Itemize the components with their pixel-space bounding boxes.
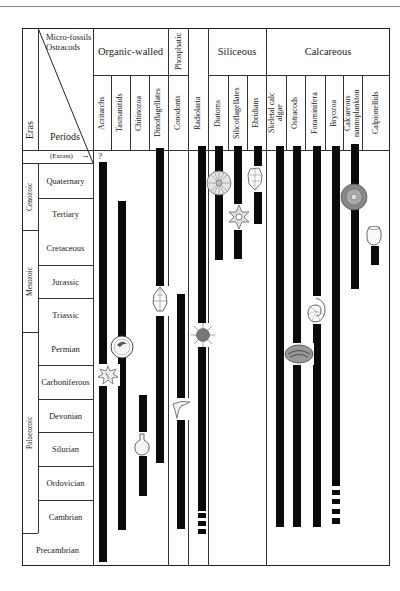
taxon-acritarchs: Acritarchs [93,76,111,150]
taxon-radiolaria: Radiolaria [188,76,208,150]
range-bar-diatoms [215,146,223,260]
taxon-ostracods: Ostracods [286,76,305,150]
calpionellid-fossil-icon [365,224,383,246]
range-bar-radiolaria-dash [198,529,206,534]
periods-axis-label: Periods [50,131,80,142]
taxon-calcareous-nannoplankton: Calcareous nannoplankton [343,76,362,150]
conodont-fossil-icon [171,398,191,420]
range-bar-bryozoa-dash [332,518,340,524]
page-top-rule [0,6,400,7]
range-bar-bryozoa [332,146,340,486]
group-phosphatic: Phosphatic [168,28,188,75]
taxon-foraminifera: Foraminifera [305,76,325,150]
taxon-silicoflagellates: Silicoflagellates [228,76,247,150]
range-bar-foraminifera [313,146,321,527]
period-silurian: Silurian [38,432,93,466]
era-mesozoic: Mesozoic [22,230,38,332]
group-organic-walled: Organic-walled [93,28,168,75]
range-bar-calcareous-nannoplankton [351,144,359,289]
era-cenozoic: Cenozoic [22,163,38,230]
range-bar-skeletal-calc-algae [276,146,284,527]
taxon-ebridians: Ebridians [247,76,266,150]
ostracod-fossil-icon [284,343,314,365]
period-cambrian: Cambrian [38,500,93,533]
taxon-dinoflagellates: Dinoflagellates [149,76,168,150]
period-permian: Permian [38,332,93,365]
range-bar-silicoflagellates [234,146,242,259]
arrow-right-icon: → [81,150,90,160]
range-bar-calpionellids [371,245,379,265]
range-bar-acritarchs [99,162,107,562]
period-tertiary: Tertiary [38,198,93,230]
taxon-skeletal-calc-algae: Skeletal calc algae [266,76,286,150]
foraminifera-fossil-icon [305,296,327,324]
chitinozoan-fossil-icon [133,432,151,456]
period-precambrian: Precambrian [22,533,93,566]
group-siliceous: Siliceous [208,28,266,75]
taxon-bryozoa: Bryozoa [325,76,343,150]
radiolarian-fossil-icon [191,323,215,347]
range-bar-ostracods [293,146,301,527]
range-bar-radiolaria-dash [198,513,206,518]
acritarch-fossil-icon [96,364,120,386]
uncertain-marker: ? [98,151,102,161]
period-cretaceous: Cretaceous [38,230,93,265]
eras-axis-label: Eras [22,110,38,150]
period-jurassic: Jurassic [38,265,93,298]
period-devonian: Devonian [38,399,93,432]
tasmanitid-fossil-icon [110,335,134,359]
extant-label: (Extant) [50,152,73,160]
diatom-fossil-icon [206,170,232,196]
era-palaeozoic: Palaeozoic [22,332,38,533]
taxon-tasmanitids: Tasmanitids [111,76,130,150]
silicoflagellate-fossil-icon [228,204,250,230]
period-carboniferous: Carboniferous [38,365,93,399]
period-triassic: Triassic [38,298,93,332]
period-quaternary: Quaternary [38,163,93,198]
taxon-label: Calcareous nannoplankton [344,83,361,143]
coccolith-fossil-icon [340,183,368,211]
corner-label-microfossils: Micro-fossils Ostracods [46,32,91,52]
range-bar-bryozoa-dash [332,490,340,495]
taxon-calpionellids: Calpionellids [362,76,390,150]
dinoflagellate-fossil-icon [151,286,169,316]
range-bar-bryozoa-dash [332,509,340,514]
taxon-conodonts: Conodonts [168,76,188,150]
taxon-chitinozoa: Chitinozoa [130,76,149,150]
taxon-label: Skeletal calc algae [268,90,285,136]
range-bar-radiolaria-dash [198,521,206,526]
group-calcareous: Calcareous [266,28,390,75]
period-ordovician: Ordovician [38,466,93,500]
ebridian-fossil-icon [246,166,264,192]
range-bar-bryozoa-dash [332,499,340,504]
taxon-diatoms: Diatoms [208,76,228,150]
